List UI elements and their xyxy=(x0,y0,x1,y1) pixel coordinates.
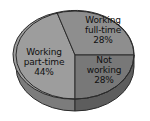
pie-slice-not-working xyxy=(75,55,134,99)
pie-chart-graphic xyxy=(0,0,150,121)
pie-chart: Working full-time 28% Working part-time … xyxy=(0,0,150,121)
pie-top-face xyxy=(13,10,134,99)
